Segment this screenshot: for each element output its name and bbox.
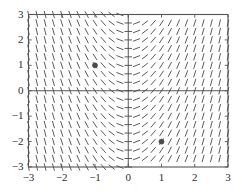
- slope-segment: [93, 45, 97, 51]
- slope-segment: [109, 72, 115, 77]
- slope-segment: [36, 96, 38, 103]
- slope-segment: [44, 104, 46, 111]
- slope-segment: [69, 155, 72, 162]
- slope-segment: [61, 138, 63, 145]
- slope-segment: [61, 28, 63, 35]
- slope-segment: [116, 115, 123, 118]
- slope-segment: [52, 113, 54, 120]
- slope-segment: [177, 104, 180, 111]
- slope-segment: [52, 121, 54, 128]
- slope-segment: [194, 130, 196, 137]
- slope-segment: [159, 105, 163, 111]
- slope-segment: [219, 45, 221, 52]
- slope-segment: [101, 130, 106, 136]
- slope-segment: [61, 45, 63, 52]
- slope-segment: [52, 104, 54, 111]
- slope-segment: [177, 53, 180, 60]
- slope-segment: [116, 47, 123, 50]
- slope-segment: [116, 56, 123, 59]
- slope-segment: [44, 28, 46, 35]
- slope-segment: [85, 121, 88, 128]
- slope-segment: [101, 46, 106, 52]
- y-axis-tick-label: 0: [0, 85, 24, 96]
- slope-segment: [109, 114, 115, 119]
- slope-segment: [159, 62, 163, 68]
- x-axis-tick-label: −3: [14, 172, 44, 183]
- slope-segment: [219, 129, 221, 136]
- slope-segment: [185, 138, 188, 145]
- slope-segment: [116, 140, 123, 143]
- slope-segment: [133, 157, 140, 160]
- slope-segment: [168, 130, 171, 137]
- slope-segment: [93, 155, 97, 161]
- slope-segment: [116, 22, 123, 25]
- slope-segment: [77, 121, 80, 128]
- slope-segment: [219, 28, 221, 35]
- slope-segment: [101, 147, 106, 153]
- slope-segment: [109, 148, 115, 153]
- slope-segment: [168, 113, 171, 120]
- slope-segment: [36, 62, 38, 69]
- slope-segment: [69, 45, 72, 52]
- slope-segment: [151, 79, 156, 85]
- slope-segment: [202, 62, 204, 69]
- slope-segment: [133, 64, 140, 67]
- slope-segment: [210, 113, 212, 120]
- slope-segment: [116, 72, 123, 75]
- slope-segment: [202, 104, 204, 111]
- slope-segment: [210, 96, 212, 103]
- slope-segment: [116, 30, 123, 33]
- slope-segment: [85, 79, 88, 86]
- slope-segment: [151, 46, 156, 52]
- slope-segment: [194, 45, 196, 52]
- slope-segment: [69, 104, 72, 111]
- slope-segment: [219, 155, 221, 162]
- slope-segment: [77, 138, 80, 145]
- slope-segment: [44, 121, 46, 128]
- slope-field-figure: −3−2−10123−3−2−10123: [0, 0, 242, 196]
- y-axis-tick-label: −1: [0, 110, 24, 121]
- slope-segment: [101, 96, 106, 102]
- slope-segment: [85, 138, 88, 145]
- slope-segment: [194, 113, 196, 120]
- slope-segment: [185, 121, 188, 128]
- slope-segment: [116, 132, 123, 135]
- slope-segment: [151, 37, 156, 43]
- slope-segment: [101, 113, 106, 119]
- slope-segment: [109, 97, 115, 102]
- slope-segment: [133, 140, 140, 143]
- slope-segment: [185, 45, 188, 52]
- y-axis-tick-label: −2: [0, 136, 24, 147]
- slope-segment: [36, 79, 38, 86]
- slope-segment: [93, 20, 97, 26]
- slope-segment: [44, 62, 46, 69]
- slope-segment: [168, 104, 171, 111]
- slope-segment: [168, 79, 171, 86]
- slope-segment: [36, 138, 38, 145]
- slope-segment: [159, 147, 163, 153]
- slope-segment: [36, 121, 38, 128]
- slope-segment: [210, 155, 212, 162]
- slope-segment: [177, 138, 180, 145]
- slope-segment: [202, 45, 204, 52]
- slope-segment: [109, 63, 115, 68]
- slope-segment: [44, 19, 46, 26]
- slope-segment: [177, 62, 180, 69]
- slope-segment: [61, 121, 63, 128]
- slope-segment: [151, 20, 156, 26]
- slope-segment: [151, 105, 156, 111]
- slope-segment: [185, 147, 188, 154]
- slope-segment: [44, 53, 46, 60]
- slope-segment: [69, 53, 72, 60]
- slope-segment: [177, 20, 180, 27]
- slope-segment: [61, 62, 63, 69]
- slope-segment: [185, 113, 188, 120]
- slope-segment: [52, 45, 54, 52]
- slope-segment: [159, 37, 163, 43]
- slope-segment: [177, 130, 180, 137]
- slope-segment: [61, 146, 63, 153]
- slope-segment: [116, 106, 123, 109]
- slope-segment: [61, 53, 63, 60]
- slope-segment: [109, 21, 115, 26]
- slope-segment: [52, 146, 54, 153]
